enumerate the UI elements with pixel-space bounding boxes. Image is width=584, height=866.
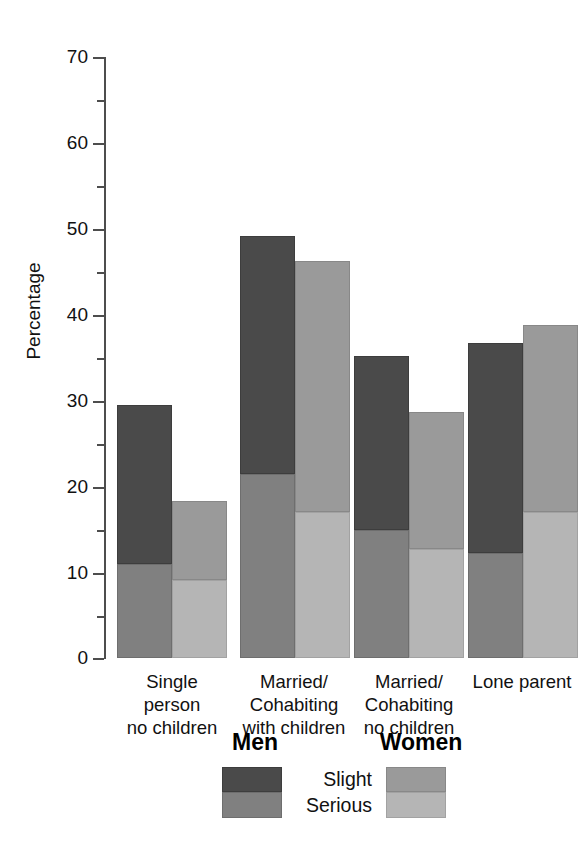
bar-chart-figure: 70 60 50 40 30 20 10 0 Percentage [0, 0, 584, 866]
y-tick-70 [93, 57, 104, 59]
category-label-line: Cohabiting [344, 693, 474, 716]
y-minor-tick-25 [97, 444, 104, 446]
bar-segment-men-slight [468, 343, 523, 553]
bar-men-single-person-no-children [117, 405, 172, 658]
legend: Men Women Slight Serious [0, 720, 584, 860]
y-axis-spine [104, 57, 106, 659]
bar-segment-women-slight [295, 261, 350, 512]
category-label-line: Married/ [344, 670, 474, 693]
bar-segment-men-slight [117, 405, 172, 564]
category-label-line: Cohabiting [229, 693, 359, 716]
bar-segment-men-serious [354, 530, 409, 658]
y-tick-label-70: 70 [0, 47, 88, 66]
bar-segment-women-slight [172, 501, 227, 580]
y-axis-title: Percentage [23, 231, 45, 391]
legend-title-men: Men [205, 729, 305, 756]
bar-segment-men-slight [354, 356, 409, 530]
bar-segment-men-serious [468, 553, 523, 658]
y-minor-tick-45 [97, 272, 104, 274]
bar-segment-women-slight [523, 325, 578, 512]
bar-segment-women-serious [172, 580, 227, 658]
bar-women-single-person-no-children [172, 501, 227, 658]
category-label-line: person [112, 693, 232, 716]
bar-segment-men-serious [240, 474, 295, 658]
category-label-lone-parent: Lone parent [458, 670, 584, 693]
y-tick-label-0: 0 [0, 648, 88, 667]
y-tick-label-20: 20 [0, 477, 88, 496]
y-tick-40 [93, 315, 104, 317]
y-tick-60 [93, 143, 104, 145]
y-tick-label-60: 60 [0, 133, 88, 152]
category-label-line: Married/ [229, 670, 359, 693]
category-label-line: Single [112, 670, 232, 693]
y-tick-label-30: 30 [0, 391, 88, 410]
legend-swatch-women-slight [386, 767, 446, 792]
y-tick-30 [93, 401, 104, 403]
plot-area: 70 60 50 40 30 20 10 0 Percentage [0, 0, 584, 700]
bar-women-lone-parent [523, 325, 578, 658]
y-minor-tick-5 [97, 616, 104, 618]
bar-segment-women-serious [295, 512, 350, 658]
bar-segment-women-serious [409, 549, 464, 658]
legend-title-women: Women [366, 729, 476, 756]
bar-men-married-cohabiting-with-children [240, 236, 295, 658]
y-tick-20 [93, 487, 104, 489]
bar-men-lone-parent [468, 343, 523, 658]
y-minor-tick-55 [97, 186, 104, 188]
y-tick-50 [93, 229, 104, 231]
legend-key-label-serious: Serious [252, 794, 372, 817]
y-minor-tick-35 [97, 358, 104, 360]
y-tick-0 [93, 658, 104, 660]
y-tick-label-10: 10 [0, 563, 88, 582]
y-minor-tick-65 [97, 100, 104, 102]
bar-women-married-cohabiting-no-children [409, 412, 464, 658]
bar-segment-women-slight [409, 412, 464, 549]
bar-segment-women-serious [523, 512, 578, 658]
category-label-line: Lone parent [458, 670, 584, 693]
bar-segment-men-serious [117, 564, 172, 658]
bar-segment-men-slight [240, 236, 295, 474]
bar-women-married-cohabiting-with-children [295, 261, 350, 658]
y-tick-10 [93, 573, 104, 575]
bar-men-married-cohabiting-no-children [354, 356, 409, 658]
y-minor-tick-15 [97, 530, 104, 532]
legend-key-label-slight: Slight [252, 768, 372, 791]
legend-swatch-women-serious [386, 792, 446, 818]
legend-swatch-women [386, 767, 446, 818]
